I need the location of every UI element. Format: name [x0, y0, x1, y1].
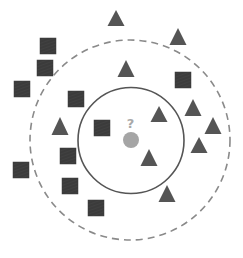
- triangle-marker: [52, 117, 69, 135]
- triangle-marker: [108, 10, 125, 26]
- question-mark-label: ?: [127, 116, 135, 131]
- square-marker: [37, 60, 53, 76]
- square-marker: [40, 38, 56, 54]
- query-point-group: ?: [123, 116, 139, 148]
- triangle-marker: [151, 106, 168, 122]
- triangle-marker: [170, 28, 187, 45]
- triangle-marker: [205, 117, 222, 134]
- square-marker: [13, 162, 29, 178]
- triangle-marker: [118, 60, 135, 77]
- square-marker: [62, 178, 78, 194]
- diagram-canvas: ?: [0, 0, 243, 258]
- square-marker: [175, 72, 191, 88]
- square-marker: [68, 91, 84, 107]
- triangle-marker: [159, 185, 176, 202]
- query-point-circle: [123, 132, 139, 148]
- square-marker: [60, 148, 76, 164]
- triangle-marker: [191, 137, 208, 153]
- square-marker: [14, 81, 30, 97]
- square-class-points: [13, 38, 191, 216]
- square-marker: [94, 120, 110, 136]
- knn-diagram: ?: [0, 0, 243, 258]
- triangle-marker: [141, 149, 158, 166]
- square-marker: [88, 200, 104, 216]
- triangle-marker: [185, 99, 202, 116]
